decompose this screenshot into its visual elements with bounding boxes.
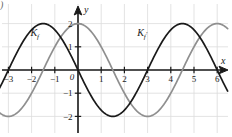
x-tick-label: 3 (145, 74, 150, 84)
x-tick-label: 6 (215, 74, 220, 84)
y-tick-label: 1 (68, 42, 73, 52)
x-tick-label: 4 (169, 74, 174, 84)
y-tick-label: 2 (68, 19, 73, 29)
x-tick-label: −1 (50, 74, 60, 84)
x-axis-label: x (220, 55, 226, 66)
y-tick-label: −2 (63, 112, 73, 122)
graph-figure: −3−2−112345621−1−2 0 x y Kf Kf′ (0, 0, 232, 137)
x-tick-label: −2 (27, 74, 37, 84)
x-tick-label: 5 (192, 74, 197, 84)
x-tick-label: 2 (122, 74, 127, 84)
origin-label: 0 (70, 72, 75, 82)
corner-mark: ) (0, 0, 5, 10)
x-tick-label: 1 (99, 74, 104, 84)
x-tick-label: −3 (4, 74, 14, 84)
y-axis-label: y (83, 4, 89, 15)
y-tick-label: −1 (63, 88, 73, 98)
